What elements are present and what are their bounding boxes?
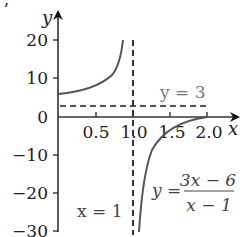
svg-text:3x − 6: 3x − 6 (180, 170, 236, 190)
svg-text:x − 1: x − 1 (186, 195, 231, 215)
y-tick-neg10: −10 (12, 145, 48, 165)
x-tick-1-5: 1.5 (158, 122, 185, 142)
y-tick-neg20: −20 (12, 183, 48, 203)
y-tick-neg30: −30 (12, 221, 48, 237)
y-tick-20: 20 (26, 30, 48, 50)
curve-left-branch (58, 40, 123, 94)
x-tick-0-5: 0.5 (82, 122, 109, 142)
equation-label: y = 3x − 6 x − 1 (151, 170, 236, 215)
y-tick-0: 0 (37, 107, 48, 127)
vertical-asymptote-label: x = 1 (77, 201, 122, 221)
corner-mark: ʼ (3, 0, 8, 20)
x-tick-2-0: 2.0 (195, 122, 222, 142)
y-axis-label: y (41, 7, 53, 28)
x-ticks (96, 110, 207, 117)
horizontal-asymptote-label: y = 3 (159, 82, 205, 102)
rational-function-graph: ʼ y x 20 10 0 −10 −20 −30 0.5 1.0 1.5 2.… (0, 0, 242, 237)
y-tick-10: 10 (26, 68, 48, 88)
svg-text:y =: y = (151, 180, 181, 200)
x-axis-label: x (228, 118, 238, 139)
